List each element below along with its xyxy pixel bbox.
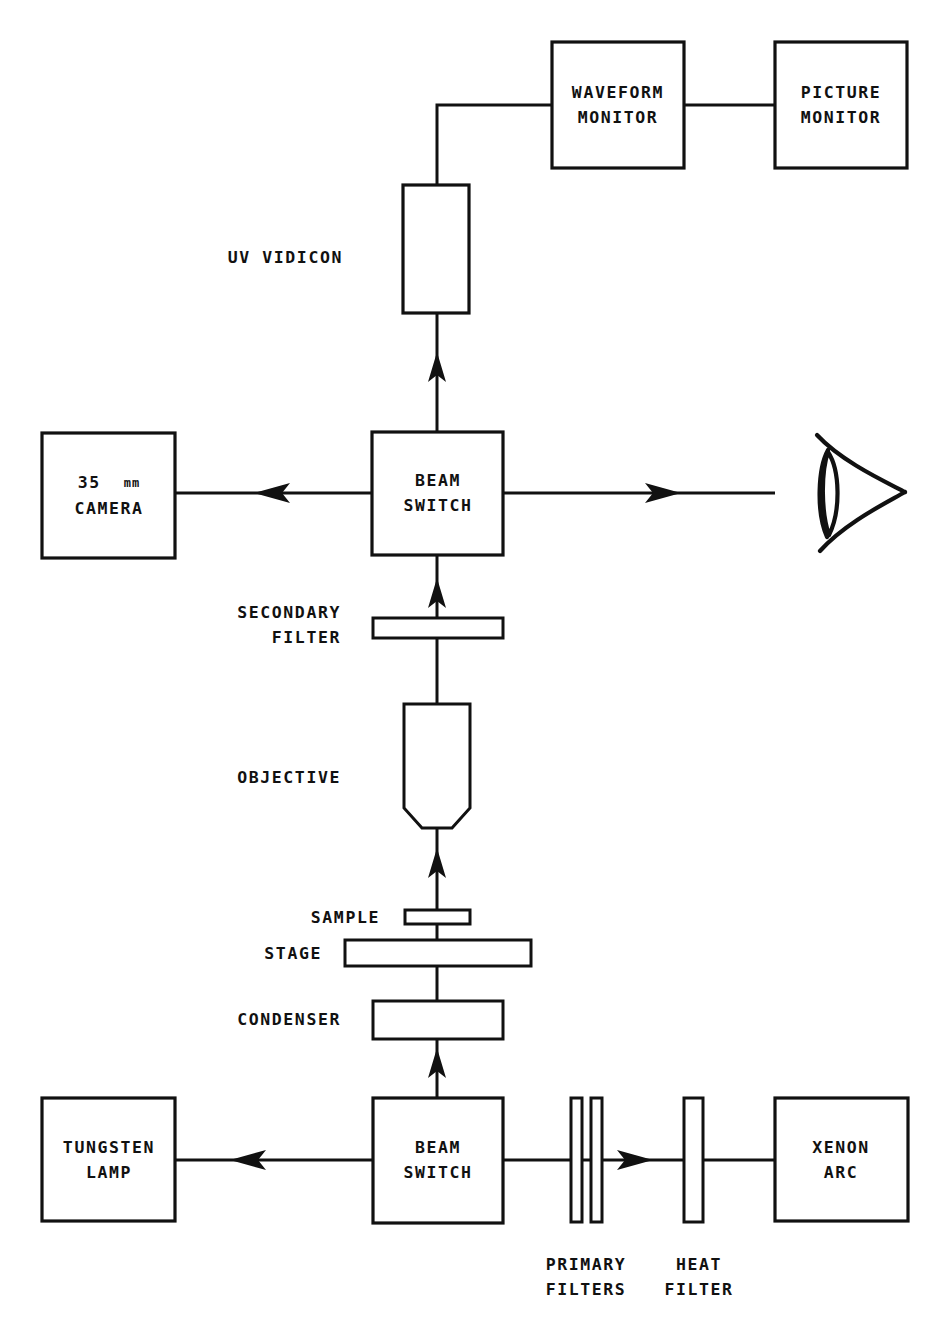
- primary-filter-plate-2[interactable]: [591, 1098, 602, 1222]
- tungsten-lamp-label: TUNGSTENLAMP: [63, 1135, 155, 1185]
- objective-label: OBJECTIVE: [237, 765, 341, 790]
- xenon-arc-label: XENONARC: [812, 1135, 870, 1185]
- heat-filter-label: HEATFILTER: [664, 1252, 733, 1302]
- waveform-monitor-label: WAVEFORMMONITOR: [572, 80, 664, 130]
- sample-plate[interactable]: [405, 910, 470, 924]
- stage-plate[interactable]: [345, 940, 531, 966]
- secondary-filter-plate[interactable]: [373, 618, 503, 638]
- condenser-box[interactable]: [373, 1001, 503, 1039]
- wire-vidicon-to-waveform: [437, 105, 552, 185]
- secondary-filter-label: SECONDARYFILTER: [237, 600, 341, 650]
- objective-lens-body[interactable]: [404, 704, 470, 828]
- eye-icon-lens: [823, 452, 838, 535]
- primary-filters-label: PRIMARYFILTERS: [546, 1252, 627, 1302]
- beam-switch-lower-label: BEAMSWITCH: [403, 1135, 472, 1185]
- uv-vidicon-label: UV VIDICON: [228, 245, 343, 270]
- sample-label: SAMPLE: [311, 905, 380, 930]
- uv-vidicon-box[interactable]: [403, 185, 469, 313]
- camera-label: 35 mmCAMERA: [74, 470, 143, 521]
- stage-label: STAGE: [264, 941, 322, 966]
- picture-monitor-label: PICTUREMONITOR: [801, 80, 882, 130]
- condenser-label: CONDENSER: [237, 1007, 341, 1032]
- heat-filter-plate[interactable]: [684, 1098, 703, 1222]
- primary-filter-plate-1[interactable]: [571, 1098, 582, 1222]
- diagram-vector-layer: [0, 0, 947, 1330]
- eye-icon-upper-lid: [817, 435, 905, 492]
- beam-switch-upper-label: BEAMSWITCH: [403, 468, 472, 518]
- optical-path-diagram: WAVEFORMMONITOR PICTUREMONITOR UV VIDICO…: [0, 0, 947, 1330]
